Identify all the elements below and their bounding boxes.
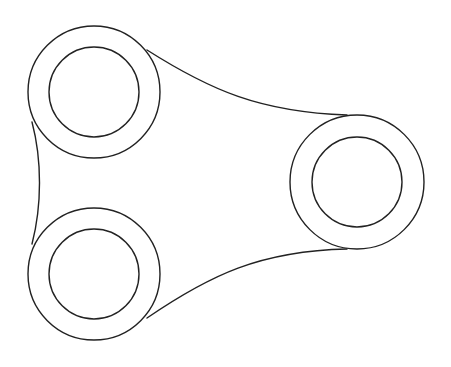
- boss-right-outer-circle: [290, 115, 424, 249]
- top-web-curve: [147, 50, 347, 115]
- boss-bottom-left: [28, 208, 160, 340]
- boss-top-left: [28, 26, 160, 158]
- boss-bottom-left-hole: [49, 229, 139, 319]
- boss-top-left-outer-circle: [28, 26, 160, 158]
- left-web-curve: [32, 122, 40, 244]
- bottom-web-curve: [147, 249, 347, 318]
- boss-right-hole: [312, 137, 402, 227]
- boss-top-left-hole: [49, 47, 139, 137]
- boss-right: [290, 115, 424, 249]
- boss-bottom-left-outer-circle: [28, 208, 160, 340]
- link-outline-drawing: [0, 0, 451, 367]
